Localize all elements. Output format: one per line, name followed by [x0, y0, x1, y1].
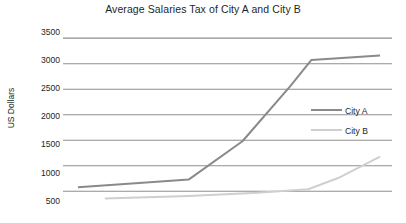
- chart-container: Average Salaries Tax of City A and City …: [0, 0, 406, 223]
- legend-item-city-b[interactable]: City B: [345, 126, 368, 136]
- legend-item-city-a[interactable]: City A: [345, 106, 367, 116]
- data-series-layer: [78, 56, 380, 199]
- legend-swatches: [311, 110, 342, 130]
- gridlines: [63, 38, 392, 191]
- series-line-city-b: [105, 157, 380, 199]
- series-line-city-a: [78, 56, 380, 188]
